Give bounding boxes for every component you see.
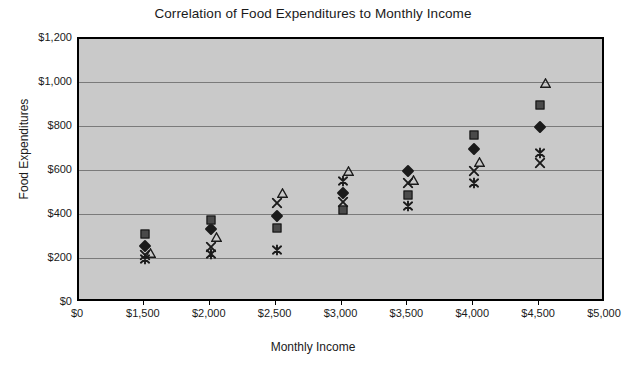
gridline [79,258,602,259]
data-point-square-icon [140,230,149,239]
data-point-asterisk-icon [403,200,414,211]
gridline [79,82,602,83]
x-tick-mark [143,301,144,305]
y-tick-label: $1,200 [6,32,72,43]
y-tick-label: $800 [6,120,72,131]
x-tick-mark [472,301,473,305]
chart-title: Correlation of Food Expenditures to Mont… [0,6,626,21]
data-point-asterisk-icon [271,244,282,255]
data-point-diamond-icon [534,121,547,134]
x-tick-label: $1,500 [126,308,160,319]
plot-area [77,37,604,301]
x-tick-label: $4,000 [455,308,489,319]
x-tick-label: $2,000 [192,308,226,319]
data-point-asterisk-icon [469,178,480,189]
data-point-square-icon [404,191,413,200]
x-axis-title: Monthly Income [0,340,626,354]
y-tick-label: $200 [6,252,72,263]
gridline [79,214,602,215]
data-point-triangle-icon [206,232,216,241]
data-point-diamond-icon [468,143,481,156]
x-tick-mark [341,301,342,305]
x-tick-label: $5,000 [587,308,621,319]
y-tick-label: $600 [6,164,72,175]
x-tick-label: $2,500 [258,308,292,319]
x-tick-label: $0 [71,308,83,319]
data-point-x-icon [337,196,348,207]
data-point-square-icon [536,101,545,110]
y-axis-tick-labels: $0$200$400$600$800$1,000$1,200 [0,0,72,368]
data-point-diamond-icon [270,209,283,222]
x-tick-mark [406,301,407,305]
x-tick-label: $3,500 [390,308,424,319]
data-point-square-icon [206,215,215,224]
y-tick-label: $1,000 [6,76,72,87]
x-tick-mark [209,301,210,305]
data-point-square-icon [272,223,281,232]
data-point-x-icon [469,166,480,177]
data-point-x-icon [535,158,546,169]
x-tick-label: $3,000 [324,308,358,319]
data-point-triangle-icon [535,78,545,87]
y-tick-label: $400 [6,208,72,219]
data-point-asterisk-icon [535,148,546,159]
gridline [79,126,602,127]
data-point-triangle-icon [338,166,348,175]
x-tick-mark [275,301,276,305]
data-point-square-icon [470,130,479,139]
data-point-asterisk-icon [337,175,348,186]
data-point-x-icon [271,197,282,208]
x-tick-mark [538,301,539,305]
scatter-chart: Correlation of Food Expenditures to Mont… [0,0,626,368]
data-point-asterisk-icon [139,254,150,265]
data-point-triangle-icon [272,188,282,197]
data-point-x-icon [403,178,414,189]
x-tick-label: $4,500 [521,308,555,319]
y-tick-label: $0 [6,296,72,307]
data-point-asterisk-icon [205,249,216,260]
